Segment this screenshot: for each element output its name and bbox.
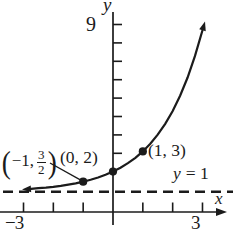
close-paren: ) bbox=[47, 147, 56, 177]
exponential-graph-figure: y x 9 −3 3 y= 1 ( −1, 3 2 ) (0, 2) (1, 3… bbox=[0, 0, 235, 239]
asymptote-label-rest: = 1 bbox=[186, 163, 209, 183]
y-axis-title: y bbox=[103, 0, 111, 16]
x-axis-arrowhead bbox=[216, 208, 227, 216]
curve-right-arrowhead bbox=[199, 22, 206, 32]
asymptote-label: y= 1 bbox=[173, 163, 209, 184]
x-tick-label-3: 3 bbox=[191, 212, 201, 234]
asymptote-label-var: y bbox=[173, 163, 181, 183]
y-tick-label-9: 9 bbox=[86, 13, 96, 36]
point-x-value: −1, bbox=[12, 151, 34, 171]
point-label-0-2: (0, 2) bbox=[60, 147, 98, 168]
graph-canvas bbox=[0, 0, 235, 239]
fraction-three-halves: 3 2 bbox=[37, 148, 46, 176]
data-point-dot bbox=[139, 147, 147, 155]
point-label-neg1-threehalves: ( −1, 3 2 ) bbox=[1, 145, 57, 179]
fraction-numerator: 3 bbox=[37, 148, 46, 163]
x-tick-label-neg3: −3 bbox=[5, 212, 23, 234]
fraction-denominator: 2 bbox=[38, 163, 45, 177]
x-axis-title: x bbox=[215, 189, 223, 209]
open-paren: ( bbox=[2, 147, 11, 177]
point-label-1-3: (1, 3) bbox=[148, 140, 186, 161]
data-point-dot bbox=[79, 178, 87, 186]
data-point-dot bbox=[109, 168, 117, 176]
